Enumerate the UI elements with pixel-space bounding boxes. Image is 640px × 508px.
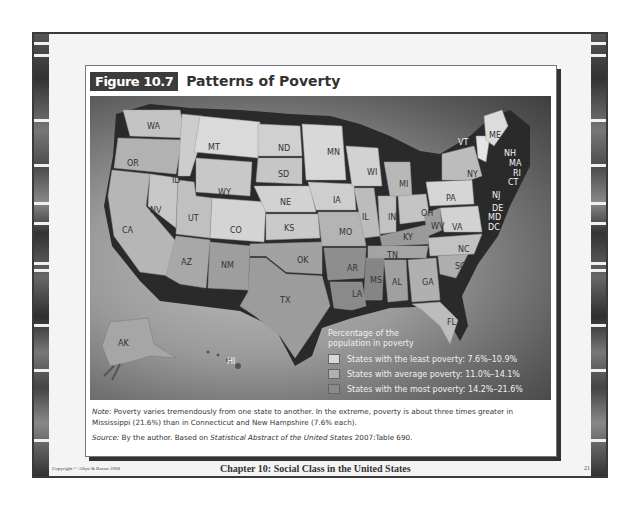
state-label-wi: WI [367,168,377,177]
state-label-nm: NM [221,261,234,270]
state-label-va: VA [452,223,462,232]
state-label-me: ME [489,131,501,140]
us-poverty-map: Percentage of the population in poverty … [90,96,551,400]
state-label-ok: OK [297,256,309,265]
copyright-text: Copyright © Allyn & Bacon 2008 [52,466,120,471]
state-label-or: OR [127,159,139,168]
state-label-ca: CA [122,226,133,235]
decorative-strip-left [34,34,49,476]
state-label-mn: MN [327,148,340,157]
state-label-ar: AR [347,264,358,273]
decorative-strip-right [591,34,606,476]
source-text-b: 2007:Table 690. [353,433,413,442]
state-label-ut: UT [188,214,199,223]
state-label-ia: IA [333,196,341,205]
note-paragraph: Note: Poverty varies tremendously from o… [92,406,550,428]
state-label-de: DE [492,204,503,213]
state-label-mo: MO [339,228,352,237]
state-label-tx: TX [280,296,290,305]
state-label-md: MD [488,213,501,222]
legend-item-most: States with the most poverty: 14.2%–21.6… [328,384,551,394]
state-label-wa: WA [147,122,160,131]
figure-notes: Note: Poverty varies tremendously from o… [92,406,550,447]
legend-title-line1: Percentage of the [328,329,551,339]
source-title: Statistical Abstract of the United State… [210,433,352,442]
state-label-hi: HI [227,357,235,366]
state-label-nc: NC [458,245,470,254]
state-label-ri: RI [513,169,521,178]
state-label-mi: MI [399,180,408,189]
state-label-fl: FL [447,318,456,327]
state-label-sd: SD [278,170,289,179]
legend-label-most: States with the most poverty: 14.2%–21.6… [347,385,523,394]
state-label-id: ID [172,176,181,185]
state-label-az: AZ [181,258,192,267]
figure-header: Figure 10.7 Patterns of Poverty [90,70,340,92]
figure-number: Figure 10.7 [90,72,178,91]
source-paragraph: Source: By the author. Based on Statisti… [92,432,550,443]
legend-label-least: States with the least poverty: 7.6%–10.9… [347,355,517,364]
state-label-tn: TN [387,251,398,260]
state-label-oh: OH [421,209,433,218]
state-label-al: AL [392,278,402,287]
state-label-il: IL [362,213,369,222]
state-label-nd: ND [278,144,290,153]
note-text: Poverty varies tremendously from one sta… [92,407,513,427]
state-label-ms: MS [370,276,382,285]
state-label-vt: VT [458,138,468,147]
state-label-dc: DC [488,223,500,232]
state-label-ma: MA [509,159,521,168]
slide-footer: Copyright © Allyn & Bacon 2008 Chapter 1… [50,463,590,475]
source-label: Source: [92,433,119,442]
legend-label-average: States with average poverty: 11.0%–14.1% [347,370,520,379]
state-label-ga: GA [422,278,434,287]
state-label-in: IN [388,213,396,222]
state-label-sc: SC [455,262,466,271]
state-label-ak: AK [118,339,129,348]
legend-swatch-average [328,369,340,379]
page-number: 21 [584,465,590,471]
state-label-co: CO [230,226,242,235]
state-label-nh: NH [504,149,516,158]
state-label-ks: KS [284,224,294,233]
state-label-nv: NV [150,206,161,215]
map-legend: Percentage of the population in poverty … [328,329,551,394]
legend-swatch-most [328,384,340,394]
legend-item-average: States with average poverty: 11.0%–14.1% [328,369,551,379]
note-label: Note: [92,407,111,416]
source-text-a: By the author. Based on [119,433,210,442]
state-label-ky: KY [403,233,413,242]
state-label-wv: WV [431,222,444,231]
state-label-la: LA [352,290,362,299]
state-label-nj: NJ [492,191,500,200]
state-label-pa: PA [446,194,456,203]
chapter-title: Chapter 10: Social Class in the United S… [220,463,411,474]
state-label-ny: NY [467,170,478,179]
figure-panel: Figure 10.7 Patterns of Poverty [85,65,557,457]
state-label-ct: CT [508,178,518,187]
state-label-mt: MT [208,143,220,152]
legend-title-line2: population in poverty [328,339,551,349]
legend-item-least: States with the least poverty: 7.6%–10.9… [328,354,551,364]
legend-swatch-least [328,354,340,364]
state-label-ne: NE [280,198,291,207]
figure-title: Patterns of Poverty [186,73,340,89]
state-label-wy: WY [218,188,231,197]
